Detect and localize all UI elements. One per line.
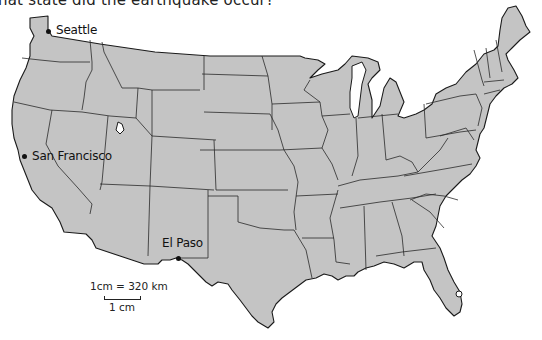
seattle-dot xyxy=(46,29,51,34)
scale-bar-label: 1 cm xyxy=(109,301,135,313)
san-francisco-dot xyxy=(22,154,27,159)
scale-bar xyxy=(104,296,141,300)
city-label-san-francisco: San Francisco xyxy=(32,149,112,163)
city-label-seattle: Seattle xyxy=(56,23,97,37)
scale-ratio-label: 1cm = 320 km xyxy=(90,280,168,292)
lake-okeechobee xyxy=(456,291,462,297)
us-map xyxy=(0,0,542,340)
city-label-el-paso: El Paso xyxy=(162,236,203,250)
el-paso-dot xyxy=(176,256,181,261)
